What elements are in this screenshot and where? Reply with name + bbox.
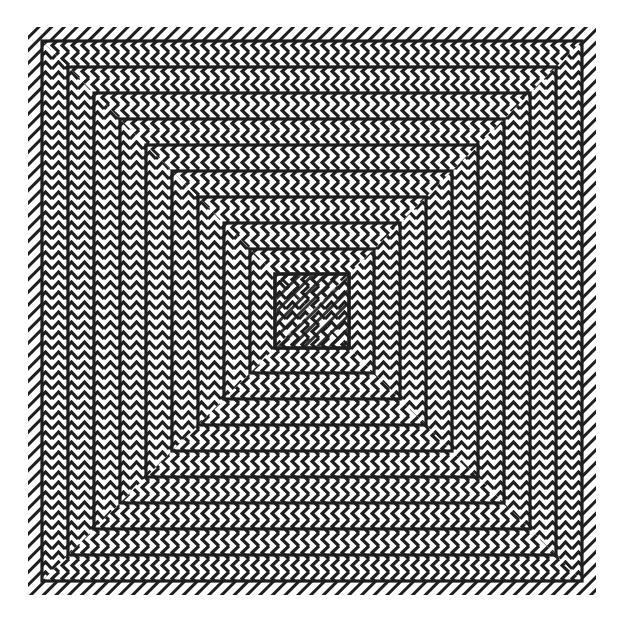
center-square	[277, 276, 347, 346]
concentric-squares	[28, 27, 596, 595]
op-art-canvas	[0, 0, 625, 623]
